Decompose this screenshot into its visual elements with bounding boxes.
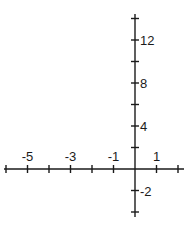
y-tick-label: -2 xyxy=(140,184,152,199)
x-tick-label: -1 xyxy=(108,149,120,164)
x-axis-labels: -5-3-11 xyxy=(22,149,160,164)
y-tick-label: 4 xyxy=(140,119,147,134)
x-tick-label: -3 xyxy=(65,149,77,164)
x-tick-label: 1 xyxy=(153,149,160,164)
x-tick-label: -5 xyxy=(22,149,34,164)
y-axis-labels: 1284-2 xyxy=(140,33,154,199)
y-tick-label: 12 xyxy=(140,33,154,48)
y-tick-label: 8 xyxy=(140,76,147,91)
coordinate-axes: -5-3-11 1284-2 xyxy=(0,0,192,225)
